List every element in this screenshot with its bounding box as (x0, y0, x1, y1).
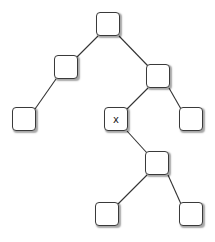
edge-right-rightleaf (169, 88, 181, 109)
edge-x-child (127, 131, 147, 153)
tree-node-right (146, 64, 170, 88)
tree-node-left-left (12, 107, 36, 131)
tree-node-bottom-left (95, 202, 119, 226)
edge-child-bottomleft (118, 175, 147, 204)
tree-node-x: x (104, 107, 128, 131)
edge-child-bottomright (168, 175, 181, 204)
tree-node-x-right (145, 151, 169, 175)
edge-left-leftleaf (35, 79, 56, 109)
tree-node-bottom-right (179, 202, 203, 226)
tree-node-left (54, 55, 78, 79)
edge-root-right (119, 36, 148, 66)
edge-right-x (127, 88, 148, 109)
node-label: x (113, 114, 119, 125)
tree-node-root (96, 12, 120, 36)
tree-node-right-right (179, 107, 203, 131)
edge-root-left (77, 36, 98, 57)
